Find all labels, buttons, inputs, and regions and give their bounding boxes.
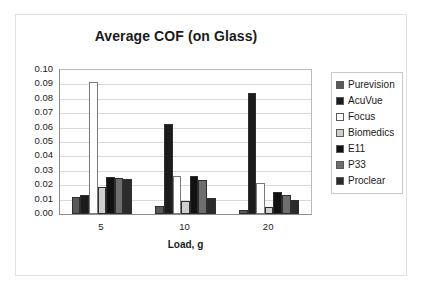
legend-item[interactable]: AcuVue bbox=[336, 93, 399, 109]
bar bbox=[190, 176, 199, 214]
bar bbox=[207, 198, 216, 214]
legend-swatch-icon bbox=[336, 177, 344, 185]
legend-item-label: P33 bbox=[348, 160, 366, 170]
bar-group bbox=[60, 70, 144, 214]
bar bbox=[164, 124, 173, 214]
legend-item[interactable]: P33 bbox=[336, 157, 399, 173]
legend-swatch-icon bbox=[336, 161, 344, 169]
chart-title: Average COF (on Glass) bbox=[16, 28, 336, 44]
legend-item[interactable]: E11 bbox=[336, 141, 399, 157]
y-axis-tick-label: 0.02 bbox=[35, 179, 54, 189]
bar bbox=[72, 197, 81, 214]
bar bbox=[239, 210, 248, 214]
bar bbox=[173, 176, 182, 214]
x-axis-tick-label: 5 bbox=[98, 221, 103, 232]
bar bbox=[291, 200, 300, 214]
bar-group bbox=[144, 70, 228, 214]
y-axis-tick-label: 0.06 bbox=[35, 122, 54, 132]
legend-item-label: Biomedics bbox=[348, 128, 394, 138]
bars-layer bbox=[60, 70, 311, 214]
bar bbox=[106, 177, 115, 214]
y-axis: 0.100.090.080.070.060.050.040.030.020.01… bbox=[16, 63, 56, 221]
y-axis-tick-label: 0.10 bbox=[35, 64, 54, 74]
y-axis-tick-label: 0.03 bbox=[35, 165, 54, 175]
x-axis-tick-label: 20 bbox=[263, 221, 274, 232]
legend-item-label: Proclear bbox=[348, 176, 385, 186]
legend-swatch-icon bbox=[336, 145, 344, 153]
x-axis: 51020 bbox=[59, 217, 312, 235]
legend-item-label: Focus bbox=[348, 112, 375, 122]
bar bbox=[198, 180, 207, 214]
chart-container: Average COF (on Glass) 0.100.090.080.070… bbox=[15, 14, 407, 276]
bar bbox=[181, 201, 190, 214]
legend-swatch-icon bbox=[336, 129, 344, 137]
y-axis-tick-label: 0.07 bbox=[35, 107, 54, 117]
bar bbox=[98, 187, 107, 214]
legend-item[interactable]: Proclear bbox=[336, 173, 399, 189]
bar bbox=[123, 179, 132, 214]
legend-item-label: Purevision bbox=[348, 80, 395, 90]
y-axis-tick-label: 0.08 bbox=[35, 93, 54, 103]
legend-item-label: E11 bbox=[348, 144, 365, 154]
bar bbox=[256, 183, 265, 214]
bar bbox=[115, 178, 124, 214]
legend-swatch-icon bbox=[336, 97, 344, 105]
bar bbox=[273, 192, 282, 214]
x-axis-title: Load, g bbox=[59, 239, 312, 250]
legend-item-label: AcuVue bbox=[348, 96, 383, 106]
bar bbox=[80, 195, 89, 214]
bar bbox=[282, 195, 291, 214]
bar bbox=[265, 207, 274, 214]
bar bbox=[89, 82, 98, 214]
y-axis-tick-label: 0.01 bbox=[35, 194, 54, 204]
bar bbox=[248, 93, 257, 214]
y-axis-tick-label: 0.09 bbox=[35, 79, 54, 89]
legend-item[interactable]: Purevision bbox=[336, 77, 399, 93]
bar bbox=[155, 206, 164, 214]
y-axis-tick-label: 0.04 bbox=[35, 151, 54, 161]
plot-area bbox=[59, 69, 312, 215]
y-axis-tick-label: 0.05 bbox=[35, 136, 54, 146]
legend-item[interactable]: Focus bbox=[336, 109, 399, 125]
bar-group bbox=[227, 70, 311, 214]
legend-swatch-icon bbox=[336, 113, 344, 121]
x-axis-tick-label: 10 bbox=[179, 221, 190, 232]
legend-swatch-icon bbox=[336, 81, 344, 89]
y-axis-tick-label: 0.00 bbox=[35, 208, 54, 218]
legend-item[interactable]: Biomedics bbox=[336, 125, 399, 141]
chart-legend: PurevisionAcuVueFocusBiomedicsE11P33Proc… bbox=[331, 72, 403, 194]
